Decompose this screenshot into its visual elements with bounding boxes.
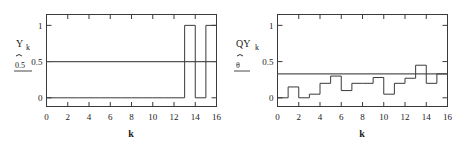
x-tick-label: 14 (422, 112, 432, 122)
plot-frame (278, 15, 448, 107)
x-tick-label: 0 (275, 112, 280, 122)
x-tick-label: 10 (379, 112, 389, 122)
x-tick-label: 14 (191, 112, 201, 122)
chart-panel-right: 00.51 0246810121416 k QY k θ (231, 0, 462, 150)
top-tick-marks (278, 15, 448, 20)
x-axis-tick-labels: 0246810121416 (44, 112, 221, 122)
x-tick-label: 2 (297, 112, 302, 122)
annotation-left: 0.5 (15, 61, 25, 70)
x-axis-title: k (359, 128, 365, 139)
accent-tilde-mark-left (16, 55, 22, 57)
y-axis-tick-labels: 00.51 (31, 21, 43, 103)
accent-tilde-mark-right (237, 55, 243, 57)
chart-panel-left: 00.51 0246810121416 k Y k 0.5 (0, 0, 231, 150)
x-tick-label: 12 (170, 112, 179, 122)
series-label-right: QY (236, 38, 250, 49)
x-tick-label: 12 (401, 112, 410, 122)
x-tick-label: 16 (443, 112, 453, 122)
x-tick-label: 2 (66, 112, 71, 122)
x-tick-label: 10 (148, 112, 158, 122)
y-tick-label: 0 (269, 93, 274, 103)
plot-frame (47, 15, 217, 107)
right-tick-marks (443, 25, 448, 97)
y-axis-tick-marks (278, 25, 283, 97)
y-tick-label: 0.5 (31, 57, 43, 67)
x-axis-title: k (128, 128, 134, 139)
x-axis-tick-marks (278, 102, 448, 107)
series-label-left: Y (16, 38, 23, 49)
chart-left-svg: 00.51 0246810121416 k Y k 0.5 (0, 0, 231, 150)
x-tick-label: 4 (87, 112, 92, 122)
x-tick-label: 8 (129, 112, 134, 122)
data-step-line (278, 65, 448, 98)
figure-two-panel-plot: 00.51 0246810121416 k Y k 0.5 0 (0, 0, 462, 150)
x-tick-label: 6 (339, 112, 344, 122)
series-subscript-left: k (26, 43, 30, 52)
annotation-right: θ (236, 61, 240, 70)
y-tick-label: 0 (38, 93, 43, 103)
chart-right-svg: 00.51 0246810121416 k QY k θ (231, 0, 462, 150)
series-subscript-right: k (255, 43, 259, 52)
y-tick-label: 0.5 (262, 57, 274, 67)
top-tick-marks (47, 15, 217, 20)
y-tick-label: 1 (38, 21, 43, 31)
x-tick-label: 4 (318, 112, 323, 122)
y-axis-tick-labels: 00.51 (262, 21, 274, 103)
x-axis-tick-labels: 0246810121416 (275, 112, 452, 122)
x-tick-label: 0 (44, 112, 49, 122)
x-tick-label: 6 (108, 112, 113, 122)
x-tick-label: 16 (212, 112, 222, 122)
y-tick-label: 1 (269, 21, 274, 31)
x-axis-tick-marks (47, 102, 217, 107)
x-tick-label: 8 (360, 112, 365, 122)
